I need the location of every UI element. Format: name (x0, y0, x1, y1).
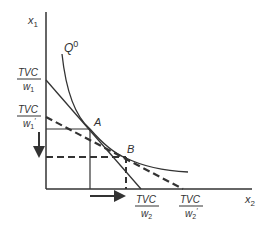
x-intercept-original: TVC w2 (135, 194, 159, 220)
svg-text:TVC: TVC (18, 67, 39, 78)
svg-text:w1′: w1′ (23, 117, 36, 130)
point-b-label: B (127, 143, 134, 155)
point-a-label: A (93, 116, 101, 128)
svg-text:Q0: Q0 (64, 39, 78, 55)
svg-text:w1: w1 (23, 81, 34, 93)
svg-text:TVC: TVC (18, 104, 39, 115)
isocost-diagram: x1 x2 Q0 A B TVC w1 TVC w1′ TVC w2 TVC w… (0, 0, 267, 232)
x-intercept-new: TVC w2′ (179, 194, 203, 220)
svg-text:w2: w2 (141, 208, 152, 220)
y-intercept-new: TVC w1′ (17, 104, 41, 130)
y-intercept-original: TVC w1 (17, 67, 41, 93)
isoquant-curve (62, 54, 188, 172)
svg-text:w2′: w2′ (185, 207, 198, 220)
svg-text:x1: x1 (27, 14, 39, 29)
isoquant-label: Q (64, 41, 73, 55)
svg-text:TVC: TVC (136, 194, 157, 205)
svg-text:TVC: TVC (180, 194, 201, 205)
new-isocost-line (46, 117, 183, 189)
svg-text:x2: x2 (244, 193, 256, 208)
